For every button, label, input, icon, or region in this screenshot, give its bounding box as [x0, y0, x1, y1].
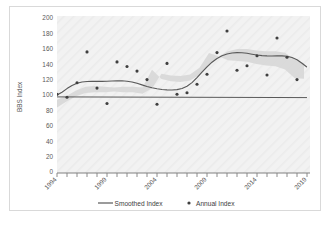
chart-canvas: 200 180 160 140 120 100 80 60 40 20 0 BB… [0, 0, 331, 230]
x-axis-ticks [57, 173, 307, 177]
baseline-reference-line [57, 97, 307, 98]
data-point [135, 70, 138, 73]
data-point [185, 91, 188, 94]
data-point [285, 56, 288, 59]
data-point [275, 36, 278, 39]
data-point [205, 73, 208, 76]
y-tick-80: 80 [46, 107, 54, 114]
data-point [165, 62, 168, 65]
x-tick-2004: 2004 [143, 175, 158, 190]
y-tick-180: 180 [42, 30, 53, 37]
data-point [295, 78, 298, 81]
y-tick-40: 40 [46, 138, 54, 145]
y-tick-160: 160 [42, 45, 53, 52]
y-tick-60: 60 [46, 122, 54, 129]
x-tick-2014: 2014 [243, 175, 258, 190]
data-point [175, 93, 178, 96]
legend-label-smoothed-index: Smoothed Index [115, 200, 164, 207]
data-point [115, 60, 118, 63]
data-point [155, 103, 158, 106]
y-tick-20: 20 [46, 153, 54, 160]
data-point [145, 78, 148, 81]
data-point [85, 50, 88, 53]
data-point [215, 51, 218, 54]
y-axis-ticks: 200 180 160 140 120 100 80 60 40 20 0 [42, 14, 53, 175]
data-point [245, 64, 248, 67]
plot-area-background [57, 16, 310, 173]
y-tick-100: 100 [42, 91, 53, 98]
data-point [255, 54, 258, 57]
data-point [235, 69, 238, 72]
data-point [225, 29, 228, 32]
data-point [125, 65, 128, 68]
y-tick-200: 200 [42, 14, 53, 21]
y-tick-140: 140 [42, 61, 53, 68]
y-axis-title: BBS Index [16, 81, 23, 112]
data-point [55, 93, 58, 96]
chart-figure: 200 180 160 140 120 100 80 60 40 20 0 BB… [0, 0, 331, 230]
legend-label-annual-index: Annual Index [196, 200, 235, 207]
data-point [65, 96, 68, 99]
x-tick-1994: 1994 [43, 175, 58, 190]
y-tick-120: 120 [42, 76, 53, 83]
legend-dot-swatch [187, 201, 190, 204]
chart-legend: Smoothed Index Annual Index [98, 200, 235, 207]
data-point [95, 87, 98, 90]
y-tick-0: 0 [49, 168, 53, 175]
data-point [75, 81, 78, 84]
data-point [105, 102, 108, 105]
data-point [265, 73, 268, 76]
x-tick-2019: 2019 [293, 175, 308, 190]
x-tick-1999: 1999 [93, 175, 108, 190]
data-point [195, 83, 198, 86]
x-axis-tick-labels: 1994 1999 2004 2009 2014 2019 [43, 175, 308, 190]
x-tick-2009: 2009 [193, 175, 208, 190]
